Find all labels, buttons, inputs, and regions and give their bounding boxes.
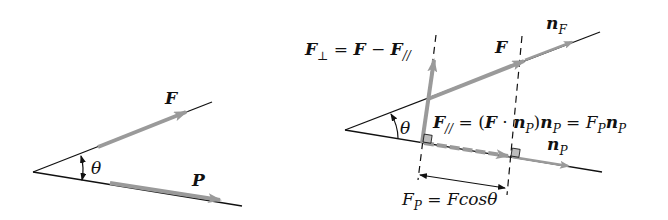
parallel-formula: F// = (F · nP)nP = FPnP [432,112,627,136]
unit-nf-label: nF [546,13,567,37]
angle-arc [391,114,398,138]
projection-dimension-arrow [420,175,505,188]
angle-arc [81,156,83,180]
unit-nf-arrow [525,42,572,60]
vector-f-arrow [428,61,524,99]
right-angle-marker-1 [423,134,432,143]
unit-np-label: nP [547,134,568,158]
right-angle-marker-2 [511,148,520,157]
vector-f-label: F [164,88,179,108]
vector-f-label: F [494,37,509,57]
vector-f-arrow [98,112,186,147]
left-diagram: F P θ [33,88,242,206]
unit-np-arrow [512,157,568,166]
perpendicular-formula: F⊥ = F − F// [304,39,413,63]
angle-theta-label: θ [400,118,410,138]
vector-p-label: P [191,170,206,190]
vector-projection-diagram: F P θ θ F⊥ = F − F// F [0,0,668,220]
angle-theta-label: θ [91,158,101,178]
right-diagram: θ F⊥ = F − F// F nF F// = (F · nP)nP = F… [304,13,627,213]
projection-formula: FP = Fcosθ [401,189,497,213]
